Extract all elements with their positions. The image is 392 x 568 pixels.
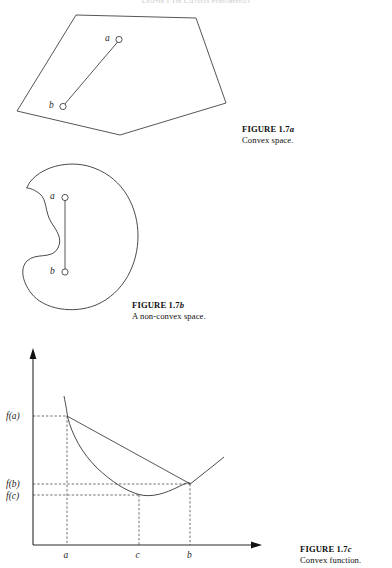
convex-function-svg: f(a) f(b) f(c) a c b xyxy=(0,340,290,568)
figure-1-7a-caption-number: FIGURE 1.7 xyxy=(242,124,290,134)
point-b-label: b xyxy=(50,266,55,276)
point-a-marker xyxy=(62,194,68,200)
y-axis-arrowhead xyxy=(30,348,37,359)
figure-1-7b-caption-letter: b xyxy=(180,300,184,310)
x-axis-arrowhead xyxy=(251,542,262,549)
point-b-marker xyxy=(62,269,68,275)
figure-1-7a-caption-letter: a xyxy=(290,124,294,134)
figure-1-7a-caption: FIGURE 1.7a Convex space. xyxy=(242,124,294,147)
convex-polygon-svg: a b xyxy=(0,4,240,149)
convex-curve xyxy=(64,396,224,496)
chord-ab xyxy=(67,416,191,484)
x-tick-label-b: b xyxy=(187,550,192,560)
x-tick-label-c: c xyxy=(136,550,141,560)
point-a-label: a xyxy=(50,191,55,201)
figure-1-7c-caption-number: FIGURE 1.7 xyxy=(300,544,348,554)
y-tick-label-fa: f(a) xyxy=(6,411,20,422)
nonconvex-region-outline xyxy=(23,164,138,310)
figure-1-7a-caption-subtitle: Convex space. xyxy=(242,135,294,146)
figure-1-7b-caption-subtitle: A non-convex space. xyxy=(132,311,206,322)
figure-1-7c-caption: FIGURE 1.7c Convex function. xyxy=(300,544,361,567)
figure-1-7c-caption-title: FIGURE 1.7c xyxy=(300,544,361,555)
point-b-marker xyxy=(60,103,66,109)
point-a-marker xyxy=(116,36,122,42)
figure-1-7c-chart: f(a) f(b) f(c) a c b xyxy=(0,340,290,568)
point-a-label: a xyxy=(105,33,110,43)
convex-polygon-outline xyxy=(17,15,226,135)
point-b-label: b xyxy=(49,100,54,110)
figure-1-7b-caption: FIGURE 1.7b A non-convex space. xyxy=(132,300,206,323)
figure-1-7b-artwork: a b xyxy=(0,160,180,310)
figure-page: Chapter 1 The Calculus Fundamentals a b … xyxy=(0,0,392,568)
figure-1-7a-artwork: a b xyxy=(0,4,240,144)
figure-1-7a-caption-title: FIGURE 1.7a xyxy=(242,124,294,135)
y-tick-label-fb: f(b) xyxy=(6,479,20,490)
figure-1-7b-caption-number: FIGURE 1.7 xyxy=(132,300,180,310)
nonconvex-blob-svg: a b xyxy=(0,160,180,315)
x-tick-label-a: a xyxy=(64,550,69,560)
segment-ab-convex xyxy=(64,42,118,106)
figure-1-7c-caption-subtitle: Convex function. xyxy=(300,555,361,566)
figure-1-7b-caption-title: FIGURE 1.7b xyxy=(132,300,206,311)
y-tick-label-fc: f(c) xyxy=(6,491,19,502)
figure-1-7c-caption-letter: c xyxy=(348,544,352,554)
